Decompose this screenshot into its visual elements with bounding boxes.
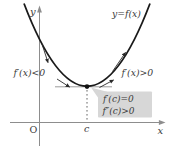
minimum-point-dot <box>85 84 90 89</box>
left-region-derivative-label: f′(x)<0 <box>13 67 46 78</box>
tangent-arrow-left-shallow-icon <box>57 79 70 87</box>
y-axis-arrowhead-icon <box>37 6 42 13</box>
curve-equation-label: y=f(x) <box>111 8 141 19</box>
callout-first-derivative-text: f′(c)=0 <box>102 94 134 104</box>
calculus-minimum-figure: f′(c)=0 f″(c)>0 y x O c y=f(x) f′(x)<0 f… <box>0 0 175 159</box>
origin-label: O <box>30 124 38 135</box>
x-axis-label: x <box>158 125 164 136</box>
callout-second-derivative-text: f″(c)>0 <box>102 106 135 116</box>
y-axis-label: y <box>29 6 36 17</box>
critical-point-label: c <box>84 123 90 134</box>
right-region-derivative-label: f′(x)>0 <box>121 67 154 78</box>
figure-canvas: f′(c)=0 f″(c)>0 y x O c y=f(x) f′(x)<0 f… <box>0 0 175 159</box>
